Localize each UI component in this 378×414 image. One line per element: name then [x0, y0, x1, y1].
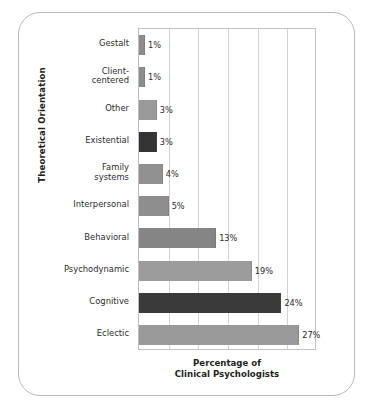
bar-family-systems[interactable]	[139, 164, 163, 184]
bar-interpersonal[interactable]	[139, 196, 169, 216]
bar-existential[interactable]	[139, 132, 157, 152]
plot-area: 1%1%3%3%4%5%13%19%24%27%	[138, 28, 316, 350]
bar-value-label: 4%	[166, 169, 179, 179]
category-label-cognitive: Cognitive	[44, 297, 129, 307]
category-label-existential: Existential	[44, 136, 129, 146]
x-axis-title: Percentage ofClinical Psychologists	[138, 358, 316, 380]
x-axis-title-line: Clinical Psychologists	[138, 369, 316, 380]
bar-value-label: 27%	[302, 330, 320, 340]
bar-value-label: 1%	[148, 40, 161, 50]
category-label-psychodynamic: Psychodynamic	[44, 265, 129, 275]
y-axis-category-labels: GestaltClient-centeredOtherExistentialFa…	[48, 28, 133, 350]
bar-other[interactable]	[139, 100, 157, 120]
category-label-line: Cognitive	[44, 297, 129, 307]
bar-value-label: 19%	[255, 266, 273, 276]
category-label-line: Behavioral	[44, 233, 129, 243]
bar-chart-figure: Theoretical Orientation GestaltClient-ce…	[0, 0, 378, 414]
bar-value-label: 5%	[172, 201, 185, 211]
bar-cognitive[interactable]	[139, 293, 281, 313]
category-label-line: systems	[44, 173, 129, 183]
bar-psychodynamic[interactable]	[139, 261, 252, 281]
category-label-other: Other	[44, 104, 129, 114]
category-label-interpersonal: Interpersonal	[44, 200, 129, 210]
category-label-line: Interpersonal	[44, 200, 129, 210]
bar-value-label: 13%	[219, 233, 237, 243]
bar-gestalt[interactable]	[139, 35, 145, 55]
category-label-line: Existential	[44, 136, 129, 146]
category-label-line: centered	[44, 76, 129, 86]
bar-value-label: 24%	[284, 298, 302, 308]
bar-client-centered[interactable]	[139, 67, 145, 87]
bar-eclectic[interactable]	[139, 325, 299, 345]
bar-behavioral[interactable]	[139, 228, 216, 248]
category-label-client-centered: Client-centered	[44, 67, 129, 86]
category-label-line: Psychodynamic	[44, 265, 129, 275]
category-label-line: Other	[44, 104, 129, 114]
bar-value-label: 3%	[160, 137, 173, 147]
category-label-gestalt: Gestalt	[44, 39, 129, 49]
x-axis-title-line: Percentage of	[138, 358, 316, 369]
category-label-family-systems: Familysystems	[44, 163, 129, 182]
category-label-line: Eclectic	[44, 329, 129, 339]
category-label-eclectic: Eclectic	[44, 329, 129, 339]
category-label-line: Gestalt	[44, 39, 129, 49]
category-label-behavioral: Behavioral	[44, 233, 129, 243]
bar-value-label: 1%	[148, 72, 161, 82]
bar-value-label: 3%	[160, 105, 173, 115]
